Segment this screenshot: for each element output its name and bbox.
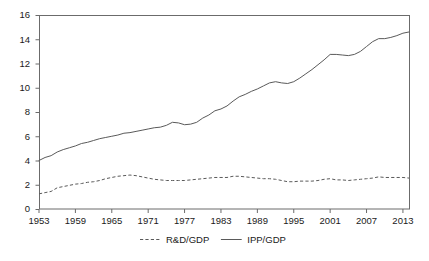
legend-label-ipp-gdp: IPP/GDP	[247, 234, 286, 245]
x-tick-label: 2013	[392, 215, 413, 226]
chart-legend: R&D/GDPIPP/GDP	[140, 234, 286, 245]
y-tick-label: 16	[19, 9, 30, 20]
x-tick-label: 1989	[247, 215, 268, 226]
legend-label-r-d-gdp: R&D/GDP	[166, 234, 209, 245]
y-tick-label: 6	[25, 131, 30, 142]
y-tick-label: 10	[19, 82, 30, 93]
y-tick-label: 12	[19, 58, 30, 69]
x-tick-label: 2001	[320, 215, 341, 226]
y-axis-tick-marks	[36, 16, 40, 210]
y-tick-label: 0	[25, 203, 30, 214]
x-tick-label: 1995	[283, 215, 304, 226]
x-tick-label: 1971	[138, 215, 159, 226]
chart-figure: 0246810121416 19531959196519711977198319…	[0, 0, 429, 261]
x-tick-label: 1965	[101, 215, 122, 226]
y-tick-label: 14	[19, 34, 30, 45]
x-axis-tick-marks	[39, 209, 403, 213]
y-tick-label: 4	[25, 155, 30, 166]
series-line-rd-gdp	[39, 175, 409, 194]
line-chart: 0246810121416 19531959196519711977198319…	[0, 0, 429, 261]
x-tick-label: 2007	[356, 215, 377, 226]
x-axis-tick-labels: 1953195919651971197719831989199520012007…	[28, 215, 413, 226]
y-axis-tick-labels: 0246810121416	[19, 9, 30, 214]
x-tick-label: 1953	[28, 215, 49, 226]
x-tick-label: 1977	[174, 215, 195, 226]
y-tick-label: 2	[25, 179, 30, 190]
x-tick-label: 1983	[210, 215, 231, 226]
x-tick-label: 1959	[65, 215, 86, 226]
y-tick-label: 8	[25, 106, 30, 117]
series-line-ipp-gdp	[39, 32, 409, 161]
